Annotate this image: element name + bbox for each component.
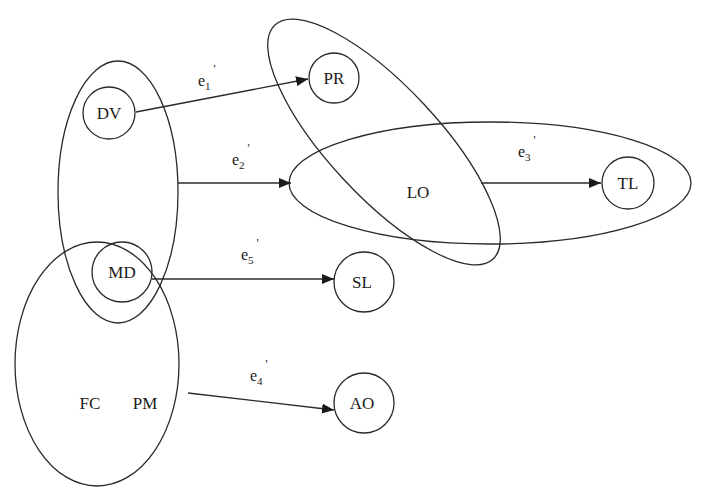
edge-e4-arrow <box>188 393 334 410</box>
node-pr: PR <box>309 53 359 103</box>
group-pr-lo-ellipse <box>235 0 534 297</box>
edge-e4-label: e4' <box>250 357 268 387</box>
edge-e2-label: e2' <box>232 141 250 171</box>
node-sl: SL <box>334 252 394 312</box>
node-dv-label: DV <box>97 104 122 123</box>
node-pr-label: PR <box>324 69 345 88</box>
hypergraph-diagram: DV MD PR TL SL AO LO FC PM e1' e2' e3' e… <box>0 0 718 494</box>
node-ao: AO <box>334 373 394 433</box>
node-lo-label: LO <box>407 183 430 202</box>
node-tl-label: TL <box>618 174 639 193</box>
node-tl: TL <box>602 157 654 209</box>
node-md: MD <box>92 242 152 302</box>
group-dv-md-ellipse <box>58 61 178 323</box>
edge-e1-label: e1' <box>198 62 216 92</box>
node-ao-label: AO <box>350 394 375 413</box>
node-md-label: MD <box>108 263 135 282</box>
edge-e5-label: e5' <box>241 236 259 266</box>
node-dv: DV <box>83 87 135 139</box>
node-pm-label: PM <box>133 394 158 413</box>
edge-e3-label: e3' <box>518 133 536 163</box>
node-fc-label: FC <box>80 394 101 413</box>
edge-e1-arrow <box>136 79 308 112</box>
node-sl-label: SL <box>352 273 372 292</box>
